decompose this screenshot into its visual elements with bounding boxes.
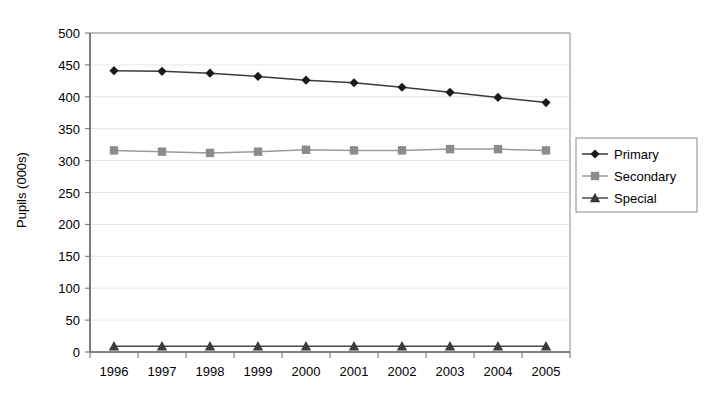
data-point-marker-square bbox=[446, 145, 454, 153]
x-axis-tick-label: 2002 bbox=[388, 364, 417, 379]
x-axis-tick-label: 1998 bbox=[196, 364, 225, 379]
y-axis-title: Pupils (000s) bbox=[14, 152, 29, 228]
x-axis-tick-label: 1997 bbox=[148, 364, 177, 379]
y-axis-tick-label: 0 bbox=[73, 345, 80, 360]
legend-label: Special bbox=[614, 191, 657, 206]
chart-legend: PrimarySecondarySpecial bbox=[576, 138, 697, 212]
y-axis-tick-label: 50 bbox=[66, 313, 80, 328]
y-axis-tick-label: 450 bbox=[58, 58, 80, 73]
data-point-marker-square bbox=[302, 146, 310, 154]
y-axis-tick-label: 200 bbox=[58, 217, 80, 232]
y-axis-tick-label: 150 bbox=[58, 249, 80, 264]
data-point-marker-square bbox=[158, 147, 166, 155]
data-point-marker-square bbox=[110, 146, 118, 154]
y-axis-tick-label: 100 bbox=[58, 281, 80, 296]
data-point-marker-square bbox=[494, 145, 502, 153]
data-point-marker-square bbox=[350, 146, 358, 154]
x-axis-tick-label: 2000 bbox=[292, 364, 321, 379]
data-point-marker-square bbox=[398, 146, 406, 154]
x-axis-tick-label: 1999 bbox=[244, 364, 273, 379]
legend-label: Secondary bbox=[614, 169, 677, 184]
y-axis-tick-label: 250 bbox=[58, 186, 80, 201]
chart-container: 050100150200250300350400450500 199619971… bbox=[0, 0, 719, 413]
x-axis-tick-label: 1996 bbox=[100, 364, 129, 379]
x-axis-tick-label: 2001 bbox=[340, 364, 369, 379]
x-axis-tick-label: 2003 bbox=[436, 364, 465, 379]
y-axis-tick-label: 300 bbox=[58, 154, 80, 169]
x-axis-tick-label: 2005 bbox=[532, 364, 561, 379]
data-point-marker-square bbox=[542, 146, 550, 154]
data-point-marker-square bbox=[254, 147, 262, 155]
y-axis-tick-label: 500 bbox=[58, 26, 80, 41]
data-point-marker-square bbox=[591, 172, 599, 180]
line-chart: 050100150200250300350400450500 199619971… bbox=[0, 0, 719, 413]
x-axis-tick-label: 2004 bbox=[484, 364, 513, 379]
y-axis-tick-label: 350 bbox=[58, 122, 80, 137]
y-axis-tick-label: 400 bbox=[58, 90, 80, 105]
data-point-marker-square bbox=[206, 149, 214, 157]
legend-label: Primary bbox=[614, 147, 659, 162]
